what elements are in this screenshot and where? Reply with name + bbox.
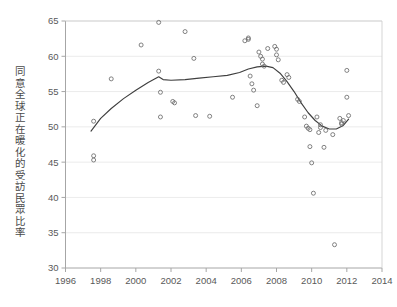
data-point [194, 114, 198, 118]
data-point [308, 145, 312, 149]
scatter-chart: 同意全球正在暖化的受訪民眾比率 6560555045403530 1996199… [0, 0, 397, 307]
data-point [139, 43, 143, 47]
x-tick-label: 1998 [90, 275, 111, 286]
data-point [276, 58, 280, 62]
data-point [250, 82, 254, 86]
y-tick-label: 55 [48, 86, 59, 97]
data-point [92, 154, 96, 158]
data-point [109, 77, 113, 81]
y-tick-label: 65 [48, 15, 59, 26]
data-point [183, 30, 187, 34]
data-point [310, 161, 314, 165]
x-tick-label: 2012 [336, 275, 357, 286]
y-axis-label-container: 同意全球正在暖化的受訪民眾比率 [6, 38, 32, 266]
data-point [157, 69, 161, 73]
data-point [255, 104, 259, 108]
plot-border [66, 21, 383, 268]
data-point [158, 115, 162, 119]
y-tick-label: 60 [48, 51, 59, 62]
x-tick-label: 2000 [125, 275, 146, 286]
x-tick-label: 2004 [196, 275, 217, 286]
data-point [318, 126, 322, 130]
data-point [345, 95, 349, 99]
y-tick-label: 50 [48, 121, 59, 132]
data-point [331, 133, 335, 137]
x-tick-marks-group [66, 268, 383, 272]
data-point [192, 56, 196, 60]
x-tick-label: 2010 [301, 275, 322, 286]
data-point [257, 50, 261, 54]
x-tick-label: 2014 [371, 275, 392, 286]
x-tick-label: 2006 [231, 275, 252, 286]
data-point [92, 119, 96, 123]
data-point [231, 95, 235, 99]
data-point [158, 90, 162, 94]
y-tick-label: 35 [48, 227, 59, 238]
axis-lines-group [62, 21, 383, 268]
y-tick-label: 40 [48, 192, 59, 203]
y-tick-label: 30 [48, 262, 59, 273]
x-tick-labels-group: 1996199820002002200420062008201020122014 [55, 275, 393, 286]
data-point [347, 114, 351, 118]
x-tick-label: 1996 [55, 275, 76, 286]
gridlines-group [66, 21, 383, 233]
plot-canvas: 6560555045403530 19961998200020022004200… [0, 0, 397, 307]
y-tick-label: 45 [48, 157, 59, 168]
data-point [92, 158, 96, 162]
data-point [315, 115, 319, 119]
data-point [266, 47, 270, 51]
x-tick-label: 2002 [160, 275, 181, 286]
data-point [345, 68, 349, 72]
y-axis-label: 同意全球正在暖化的受訪民眾比率 [13, 66, 24, 239]
x-tick-label: 2008 [266, 275, 287, 286]
data-point [322, 145, 326, 149]
data-point [324, 128, 328, 132]
data-points-group [92, 20, 351, 246]
data-point [311, 191, 315, 195]
y-tick-labels-group: 6560555045403530 [48, 15, 59, 273]
trend-line [91, 66, 349, 131]
data-point [303, 115, 307, 119]
data-point [208, 114, 212, 118]
data-point [248, 74, 252, 78]
data-point [333, 243, 337, 247]
data-point [317, 131, 321, 135]
trend-line-group [91, 66, 349, 131]
